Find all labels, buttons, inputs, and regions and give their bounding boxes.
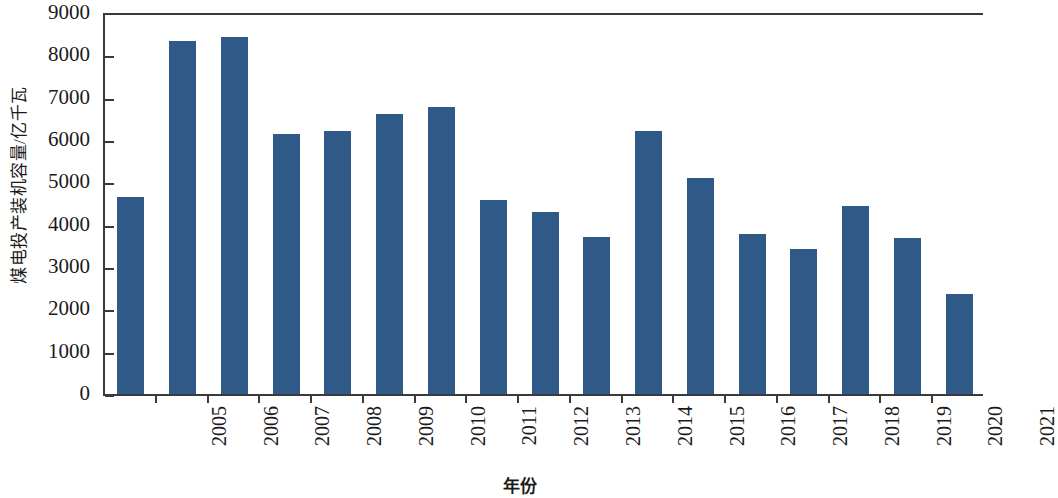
y-tick-mark [105, 141, 114, 143]
x-tick-mark [155, 394, 157, 403]
x-tick-label: 2014 [676, 406, 694, 496]
x-tick-mark [776, 394, 778, 403]
bar [428, 107, 455, 396]
x-tick-label: 2009 [417, 406, 435, 496]
x-tick-label: 2018 [883, 406, 901, 496]
y-tick-mark [105, 183, 114, 185]
y-tick-label: 0 [2, 383, 90, 404]
plot-area [103, 13, 983, 396]
bar [687, 178, 714, 396]
y-tick-mark [105, 226, 114, 228]
x-tick-mark [879, 394, 881, 403]
x-tick-mark [569, 394, 571, 403]
y-tick-mark [105, 99, 114, 101]
x-tick-label: 2021 [1038, 406, 1056, 496]
x-tick-mark [414, 394, 416, 403]
bar [739, 234, 766, 396]
bar [635, 131, 662, 396]
y-tick-label: 4000 [2, 214, 90, 235]
y-tick-label: 5000 [2, 171, 90, 192]
y-tick-mark [105, 310, 114, 312]
y-tick-mark [105, 268, 114, 270]
x-tick-label: 2006 [262, 406, 280, 496]
x-tick-mark [310, 394, 312, 403]
x-axis-line [103, 394, 983, 396]
x-tick-label: 2017 [831, 406, 849, 496]
y-tick-label: 8000 [2, 44, 90, 65]
x-tick-mark [672, 394, 674, 403]
x-tick-mark [931, 394, 933, 403]
x-tick-label: 2015 [728, 406, 746, 496]
bar [894, 238, 921, 396]
bar [532, 212, 559, 396]
bar [376, 114, 403, 396]
y-tick-mark [105, 353, 114, 355]
x-tick-mark [207, 394, 209, 403]
x-tick-mark [258, 394, 260, 403]
x-tick-label: 2016 [779, 406, 797, 496]
y-tick-label: 3000 [2, 256, 90, 277]
x-tick-mark [828, 394, 830, 403]
bar [583, 237, 610, 396]
bar [221, 37, 248, 396]
x-tick-mark [724, 394, 726, 403]
bar [946, 294, 973, 396]
bar [324, 131, 351, 396]
x-tick-label: 2005 [210, 406, 228, 496]
y-tick-mark [105, 56, 114, 58]
y-axis-tick-labels: 0100020003000400050006000700080009000 [0, 0, 100, 498]
y-tick-label: 6000 [2, 129, 90, 150]
x-tick-label: 2013 [624, 406, 642, 496]
x-tick-label: 2020 [986, 406, 1004, 496]
x-tick-mark [362, 394, 364, 403]
y-tick-label: 2000 [2, 298, 90, 319]
x-tick-label: 2019 [935, 406, 953, 496]
bar [273, 134, 300, 396]
bar [480, 200, 507, 396]
x-tick-mark [465, 394, 467, 403]
x-tick-mark [517, 394, 519, 403]
x-tick-label: 2011 [520, 406, 538, 496]
bar [117, 197, 144, 396]
bar [790, 249, 817, 396]
y-tick-label: 1000 [2, 341, 90, 362]
bar [169, 41, 196, 396]
x-tick-mark [621, 394, 623, 403]
y-tick-label: 9000 [2, 2, 90, 23]
y-tick-label: 7000 [2, 87, 90, 108]
x-tick-label: 2012 [572, 406, 590, 496]
x-tick-label: 2007 [313, 406, 331, 496]
x-tick-label: 2008 [365, 406, 383, 496]
bar [842, 206, 869, 396]
x-tick-label: 2010 [469, 406, 487, 496]
